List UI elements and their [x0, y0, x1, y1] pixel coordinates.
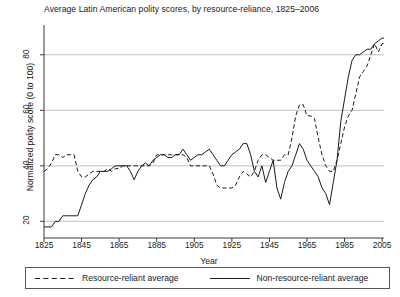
- legend-item-resource-reliant: Resource-reliant average: [34, 273, 179, 283]
- legend-item-non-resource-reliant: Non-resource-reliant average: [209, 273, 369, 283]
- plot-area: [0, 0, 400, 297]
- data-series-layer: [44, 38, 384, 227]
- dashed-line-icon: [34, 274, 76, 283]
- legend-label-non-resource-reliant: Non-resource-reliant average: [257, 273, 369, 283]
- axis-ticks: [40, 55, 382, 242]
- axis-lines: [44, 25, 384, 238]
- series-line-2: [44, 38, 384, 227]
- solid-line-icon: [209, 274, 251, 283]
- legend-label-resource-reliant: Resource-reliant average: [82, 273, 179, 283]
- chart-figure: Average Latin American polity scores, by…: [0, 0, 400, 297]
- legend: Resource-reliant average Non-resource-re…: [25, 267, 390, 289]
- series-line-1: [44, 44, 384, 188]
- gridlines: [44, 55, 384, 222]
